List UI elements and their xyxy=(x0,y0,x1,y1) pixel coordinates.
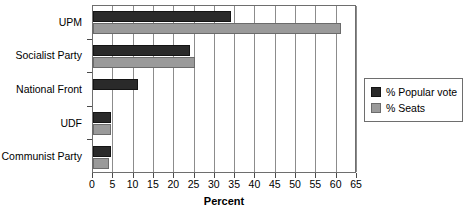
category-label: National Front xyxy=(16,83,82,95)
legend-label-popular-vote: % Popular vote xyxy=(386,86,457,98)
category-label: UDF xyxy=(60,117,82,129)
x-axis-tick-label: 55 xyxy=(310,178,322,191)
category-axis-labels: UPMSocialist PartyNational FrontUDFCommu… xyxy=(0,5,88,173)
x-axis-tick-label: 40 xyxy=(249,178,261,191)
x-axis-tick-label: 50 xyxy=(289,178,301,191)
x-axis-tick-label: 65 xyxy=(350,178,362,191)
x-axis-tick-label: 0 xyxy=(89,178,95,191)
x-axis-tick-label: 45 xyxy=(269,178,281,191)
x-axis-title: Percent xyxy=(92,195,356,207)
bar-popular-vote xyxy=(93,45,190,56)
bar-seats xyxy=(93,124,111,135)
category-label: Communist Party xyxy=(1,150,82,162)
bar-popular-vote xyxy=(93,79,138,90)
legend-swatch-seats xyxy=(371,103,381,113)
legend-item-popular-vote: % Popular vote xyxy=(371,84,456,100)
x-axis-tick-label: 60 xyxy=(330,178,342,191)
x-axis-tick-label: 25 xyxy=(188,178,200,191)
category-label: Socialist Party xyxy=(15,49,82,61)
x-axis-tick-label: 10 xyxy=(127,178,139,191)
legend-swatch-popular-vote xyxy=(371,87,381,97)
x-axis-tick-labels: 05101520253035404550556065 xyxy=(92,178,356,192)
legend: % Popular vote % Seats xyxy=(364,78,463,122)
x-axis-tick-label: 15 xyxy=(147,178,159,191)
x-axis-tick-label: 20 xyxy=(167,178,179,191)
bar-chart: UPMSocialist PartyNational FrontUDFCommu… xyxy=(0,0,469,218)
x-axis-tick-label: 35 xyxy=(228,178,240,191)
bar-popular-vote xyxy=(93,112,111,123)
y-axis-tick xyxy=(87,72,92,73)
y-axis-tick xyxy=(87,39,92,40)
y-axis-tick xyxy=(87,106,92,107)
bars-layer xyxy=(93,6,355,172)
bar-popular-vote xyxy=(93,146,111,157)
bar-seats xyxy=(93,23,341,34)
legend-item-seats: % Seats xyxy=(371,100,456,116)
x-axis-tick-label: 30 xyxy=(208,178,220,191)
category-label: UPM xyxy=(59,16,82,28)
bar-seats xyxy=(93,57,195,68)
x-axis-tick-label: 5 xyxy=(109,178,115,191)
gridline xyxy=(356,6,357,172)
bar-seats xyxy=(93,158,109,169)
plot-area xyxy=(92,5,356,173)
bar-popular-vote xyxy=(93,11,231,22)
y-axis-tick xyxy=(87,139,92,140)
legend-label-seats: % Seats xyxy=(386,102,425,114)
